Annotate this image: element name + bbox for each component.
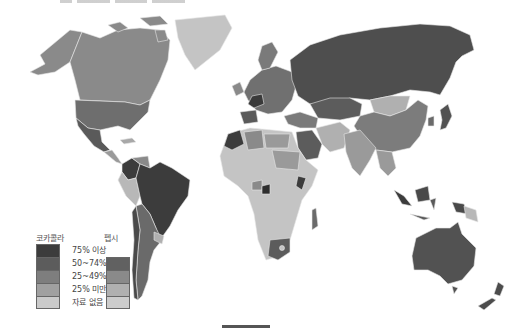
swatch-50-74 [36,257,60,270]
scale-bar [222,325,270,328]
region-canada[interactable] [70,28,170,105]
pepsi-swatches [106,257,130,309]
cocacola-swatches [36,244,60,309]
region-japan[interactable] [440,104,452,130]
legend-label: 75% 이상 [72,244,107,257]
pepsi-swatch-no-data [106,296,130,309]
swatch-25-49 [36,270,60,283]
legend-labels: 75% 이상 50~74% 25~49% 25% 미만 자료 없음 [72,244,107,309]
region-russia[interactable] [290,24,474,104]
pepsi-legend-title: 펩시 [104,232,118,243]
legend-label: 25% 미만 [72,283,107,296]
swatch-no-data [36,296,60,309]
swatch-75-plus [36,244,60,257]
region-new-zealand[interactable] [478,282,504,310]
cocacola-legend-title: 코카콜라 [36,232,64,243]
region-australia[interactable] [412,222,476,284]
legend-label: 50~74% [72,257,107,270]
pepsi-swatch-under-25 [106,283,130,296]
region-usa[interactable] [75,100,150,130]
pepsi-swatch-25-49 [106,270,130,283]
legend-label: 자료 없음 [72,296,107,309]
pepsi-swatch-50-74 [106,257,130,270]
region-greenland[interactable] [175,15,232,70]
region-south-africa[interactable] [268,238,290,260]
legend-label: 25~49% [72,270,107,283]
swatch-under-25 [36,283,60,296]
